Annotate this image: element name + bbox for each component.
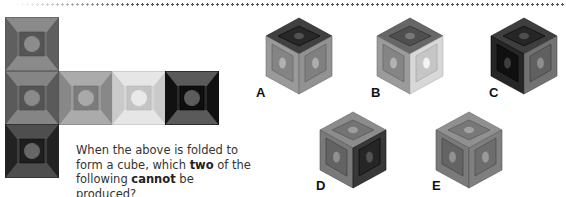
moon-tile-graphic [5,71,59,125]
net-tile-row-2 [59,71,113,125]
isometric-cube-icon [487,16,561,96]
moon-tile-graphic [112,71,166,125]
option-cube-d[interactable] [316,110,390,190]
isometric-cube-icon [373,16,447,96]
net-tile-row-1 [5,71,59,125]
question-text-fragment: following [76,172,131,186]
emphasis-two: two [190,158,214,172]
question-line-2: form a cube, which two of the [76,158,256,173]
moon-tile-graphic [59,71,113,125]
option-cube-b[interactable] [373,16,447,96]
option-cube-a[interactable] [262,16,336,96]
dotted-divider [0,3,566,6]
net-tile-row-4 [165,71,219,125]
net-tile-bottom [5,124,59,178]
option-label-d[interactable]: D [316,178,325,193]
question-line-1: When the above is folded to [76,143,256,158]
question-line-3: following cannot be produced? [76,172,256,197]
isometric-cube-icon [316,110,390,190]
option-label-e[interactable]: E [432,178,441,193]
option-cube-c[interactable] [487,16,561,96]
net-tile-top [5,17,59,71]
isometric-cube-icon [262,16,336,96]
isometric-cube-icon [432,110,506,190]
moon-tile-graphic [5,124,59,178]
option-label-b[interactable]: B [371,85,380,100]
option-label-c[interactable]: C [489,85,498,100]
moon-tile-graphic [165,71,219,125]
option-label-a[interactable]: A [256,85,265,100]
question-text-fragment: form a cube, which [76,158,190,172]
moon-tile-graphic [5,17,59,71]
question-text: When the above is folded to form a cube,… [76,143,256,197]
net-tile-row-3 [112,71,166,125]
emphasis-cannot: cannot [131,172,175,186]
option-cube-e[interactable] [432,110,506,190]
question-text-fragment: of the [214,158,251,172]
